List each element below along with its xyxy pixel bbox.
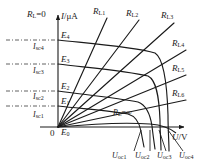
label-rl-infinity: RL=∞ (113, 109, 132, 117)
label-e4: E4 (61, 31, 70, 40)
leader-uoc3 (159, 130, 166, 151)
label-rl1: RL1 (93, 7, 105, 16)
iv-characteristic-figure: I/μA U/V 0 RL=0 RL=∞ E4 E3 E2 E1 E0 Isc4… (0, 0, 205, 167)
axis-label-x: U/V (172, 133, 188, 142)
label-e1: E1 (61, 97, 70, 106)
label-e0: E0 (61, 128, 70, 137)
label-uoc2: Uoc2 (135, 152, 149, 160)
label-uoc1: Uoc1 (112, 152, 126, 160)
iv-curve-e2 (58, 91, 155, 149)
origin-label: 0 (50, 129, 55, 138)
iv-curves (58, 40, 169, 151)
label-isc4: Isc4 (33, 43, 44, 51)
label-rl-zero: RL=0 (27, 10, 46, 19)
label-rl4: RL4 (172, 39, 184, 48)
leader-uoc1 (134, 130, 141, 151)
label-rl5: RL5 (172, 64, 184, 73)
label-isc3: Isc3 (33, 67, 44, 75)
label-uoc3: Uoc3 (157, 152, 171, 160)
rl-infinity-curve (58, 123, 176, 133)
label-isc2: Isc2 (33, 93, 44, 101)
label-rl2: RL2 (126, 9, 138, 18)
label-isc1: Isc1 (33, 111, 44, 119)
axis-label-y: I/μA (61, 12, 78, 21)
label-rl6: RL6 (172, 89, 184, 98)
label-e2: E2 (61, 82, 70, 91)
dashed-isc-level-lines (6, 40, 57, 106)
label-e3: E3 (61, 55, 70, 64)
label-uoc4: Uoc4 (179, 152, 193, 160)
iv-curve-e4 (58, 40, 169, 151)
label-rl3: RL3 (161, 11, 173, 20)
rl-infinity-path (58, 123, 176, 133)
